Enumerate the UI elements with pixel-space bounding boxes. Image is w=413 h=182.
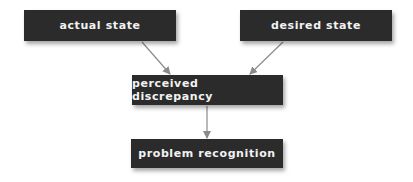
node-label: problem recognition <box>138 147 276 160</box>
edge-actual-to-perceived <box>142 42 170 74</box>
node-label: actual state <box>59 19 140 32</box>
node-desired-state: desired state <box>240 10 392 41</box>
node-perceived-discrepancy: perceived discrepancy <box>132 75 283 105</box>
node-label: desired state <box>271 19 361 32</box>
edge-desired-to-perceived <box>250 42 283 74</box>
node-actual-state: actual state <box>24 10 176 41</box>
node-label: perceived discrepancy <box>132 77 283 103</box>
node-problem-recognition: problem recognition <box>131 139 283 168</box>
